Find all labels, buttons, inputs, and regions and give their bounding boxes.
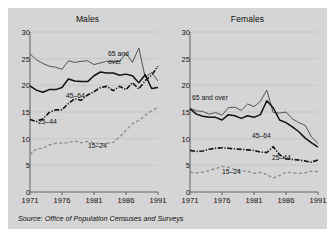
series-annotation: 25–44 bbox=[272, 154, 291, 162]
series-line-45-64 bbox=[30, 72, 158, 92]
series-annotation: 65 and over bbox=[192, 94, 228, 102]
y-tick-label: 30 bbox=[12, 28, 30, 37]
y-tick-label: 5 bbox=[172, 161, 190, 170]
y-tick-label: 25 bbox=[12, 55, 30, 64]
series-line-25-44 bbox=[190, 147, 318, 162]
y-tick-label: 20 bbox=[12, 81, 30, 90]
x-tick-label: 1981 bbox=[81, 196, 107, 205]
series-annotation: 45–64 bbox=[252, 132, 271, 140]
x-tick-label: 1971 bbox=[177, 196, 203, 205]
x-tick-label: 1971 bbox=[17, 196, 43, 205]
series-annotation: 65 and over bbox=[108, 50, 129, 66]
series-line-15-24 bbox=[190, 166, 318, 178]
plot-area-females: 65 and over45–6425–4415–24 bbox=[190, 32, 318, 192]
panel-title-males: Males bbox=[8, 14, 167, 24]
series-line-45-64 bbox=[190, 101, 318, 147]
series-annotation: 25–44 bbox=[38, 118, 57, 126]
panel-title-females: Females bbox=[168, 14, 327, 24]
y-axis-labels-females: 051015202530 bbox=[168, 32, 190, 192]
chart-svg-females bbox=[190, 32, 318, 192]
y-axis-labels-males: 051015202530 bbox=[8, 32, 30, 192]
series-line-25-44 bbox=[30, 66, 158, 121]
x-axis-labels-males: 19711976198119861991 bbox=[30, 194, 158, 208]
y-tick-label: 15 bbox=[172, 108, 190, 117]
y-tick-label: 25 bbox=[172, 55, 190, 64]
source-note: Source: Office of Population Censuses an… bbox=[18, 214, 183, 223]
panel-females: Females 051015202530 65 and over45–6425–… bbox=[168, 8, 327, 208]
figure-container: Males 051015202530 65 and over45–6425–44… bbox=[8, 8, 327, 229]
y-tick-label: 20 bbox=[172, 81, 190, 90]
y-tick-label: 5 bbox=[12, 161, 30, 170]
x-tick-label: 1991 bbox=[305, 196, 327, 205]
x-tick-label: 1976 bbox=[49, 196, 75, 205]
panel-males: Males 051015202530 65 and over45–6425–44… bbox=[8, 8, 167, 208]
y-tick-label: 15 bbox=[12, 108, 30, 117]
x-tick-label: 1986 bbox=[113, 196, 139, 205]
series-annotation: 15–24 bbox=[222, 168, 241, 176]
chart-svg-males bbox=[30, 32, 158, 192]
series-annotation: 15–24 bbox=[88, 142, 107, 150]
series-annotation: 45–64 bbox=[66, 92, 85, 100]
x-tick-label: 1976 bbox=[209, 196, 235, 205]
plot-area-males: 65 and over45–6425–4415–24 bbox=[30, 32, 158, 192]
y-tick-label: 10 bbox=[172, 135, 190, 144]
x-tick-label: 1981 bbox=[241, 196, 267, 205]
y-tick-label: 10 bbox=[12, 135, 30, 144]
y-tick-label: 30 bbox=[172, 28, 190, 37]
x-tick-label: 1986 bbox=[273, 196, 299, 205]
x-axis-labels-females: 19711976198119861991 bbox=[190, 194, 318, 208]
